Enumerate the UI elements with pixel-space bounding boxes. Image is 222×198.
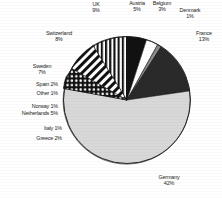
pie-label-sweden-value: 7% bbox=[26, 69, 58, 75]
pie-label-germany: Germany 42% bbox=[152, 174, 186, 186]
pie-label-france: France 13% bbox=[190, 30, 218, 42]
pie-label-austria-value: 5% bbox=[124, 6, 150, 12]
pie-label-denmark-value: 1% bbox=[174, 13, 206, 19]
pie-label-greece: Greece 2% bbox=[10, 135, 62, 141]
pie-label-greece-name: Greece bbox=[36, 135, 54, 141]
pie-label-other-name: Other bbox=[36, 90, 50, 96]
pie-label-norway-name: Norway bbox=[32, 103, 51, 109]
pie-label-other-value: 1% bbox=[51, 90, 59, 96]
pie-label-spain-value: 2% bbox=[51, 81, 59, 87]
pie-label-belgium: Belgium 3% bbox=[148, 0, 176, 12]
pie-label-switzerland: Switzerland 8% bbox=[36, 30, 82, 42]
pie-label-netherlands: Netherlands 5% bbox=[0, 110, 58, 116]
pie-label-france-value: 13% bbox=[190, 36, 218, 42]
pie-label-belgium-value: 3% bbox=[148, 6, 176, 12]
pie-chart-figure: UK 9% Austria 5% Belgium 3% Denmark 1% F… bbox=[0, 0, 222, 198]
pie-label-other: Other 1% bbox=[8, 90, 58, 96]
pie-label-netherlands-value: 5% bbox=[51, 110, 59, 116]
pie-label-sweden: Sweden 7% bbox=[26, 63, 58, 75]
pie-label-spain-name: Spain bbox=[36, 81, 50, 87]
pie-label-denmark: Denmark 1% bbox=[174, 7, 206, 19]
pie-chart-graphic bbox=[0, 0, 222, 198]
pie-label-netherlands-name: Netherlands bbox=[22, 110, 51, 116]
pie-label-germany-value: 42% bbox=[152, 180, 186, 186]
pie-label-norway-value: 1% bbox=[51, 103, 59, 109]
pie-label-austria: Austria 5% bbox=[124, 0, 150, 12]
pie-label-italy-value: 1% bbox=[55, 125, 63, 131]
pie-label-greece-value: 2% bbox=[55, 135, 63, 141]
pie-label-norway: Norway 1% bbox=[4, 103, 58, 109]
pie-label-switzerland-value: 8% bbox=[36, 36, 82, 42]
pie-label-italy: Italy 1% bbox=[14, 125, 62, 131]
pie-slices bbox=[63, 36, 190, 164]
pie-label-uk-value: 9% bbox=[82, 7, 110, 13]
pie-label-uk: UK 9% bbox=[82, 1, 110, 13]
pie-label-spain: Spain 2% bbox=[8, 81, 58, 87]
pie-label-italy-name: Italy bbox=[44, 125, 54, 131]
